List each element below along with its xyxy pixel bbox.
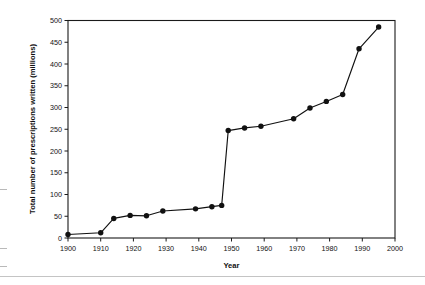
plot-frame <box>68 21 395 239</box>
x-tick-label: 1940 <box>191 244 207 253</box>
x-tick-label: 1920 <box>125 244 141 253</box>
y-tick-label: 150 <box>50 168 62 177</box>
x-tick-label: 1970 <box>289 244 305 253</box>
x-axis-title: Year <box>223 261 239 270</box>
y-axis-ticks: 050100150200250300350400450500 <box>50 16 68 243</box>
data-point <box>193 206 198 211</box>
data-point <box>324 99 329 104</box>
crop-mark-icon <box>0 266 7 267</box>
data-point <box>219 203 224 208</box>
data-point <box>65 232 70 237</box>
data-point <box>376 24 381 29</box>
x-tick-label: 1930 <box>158 244 174 253</box>
series-markers-prescriptions <box>65 24 381 237</box>
y-tick-label: 250 <box>50 125 62 134</box>
y-tick-label: 450 <box>50 38 62 47</box>
x-tick-label: 1980 <box>322 244 338 253</box>
x-axis-ticks: 1900191019201930194019501960197019801990… <box>60 238 403 253</box>
page-divider <box>0 276 425 277</box>
data-point <box>98 230 103 235</box>
x-tick-label: 1990 <box>354 244 370 253</box>
y-tick-label: 300 <box>50 103 62 112</box>
data-point <box>258 124 263 129</box>
data-point <box>242 125 247 130</box>
data-point <box>340 92 345 97</box>
y-tick-label: 350 <box>50 81 62 90</box>
crop-mark-icon <box>0 189 7 190</box>
y-tick-label: 500 <box>50 16 62 25</box>
crop-mark-icon <box>0 248 7 249</box>
x-tick-label: 1900 <box>60 244 76 253</box>
chart-figure: 050100150200250300350400450500 190019101… <box>0 0 425 285</box>
data-point <box>356 46 361 51</box>
y-tick-label: 0 <box>58 234 62 243</box>
data-point <box>226 128 231 133</box>
data-point <box>127 213 132 218</box>
y-axis-title: Total number of prescriptions written (m… <box>28 44 37 214</box>
data-point <box>209 204 214 209</box>
line-chart: 050100150200250300350400450500 190019101… <box>0 0 425 285</box>
data-point <box>307 105 312 110</box>
x-tick-label: 1950 <box>224 244 240 253</box>
data-point <box>160 208 165 213</box>
x-tick-label: 1960 <box>256 244 272 253</box>
data-point <box>111 216 116 221</box>
y-tick-label: 200 <box>50 147 62 156</box>
x-tick-label: 2000 <box>387 244 403 253</box>
x-tick-label: 1910 <box>93 244 109 253</box>
y-tick-label: 400 <box>50 60 62 69</box>
data-point <box>144 213 149 218</box>
y-tick-label: 100 <box>50 190 62 199</box>
data-point <box>291 116 296 121</box>
y-tick-label: 50 <box>54 212 62 221</box>
